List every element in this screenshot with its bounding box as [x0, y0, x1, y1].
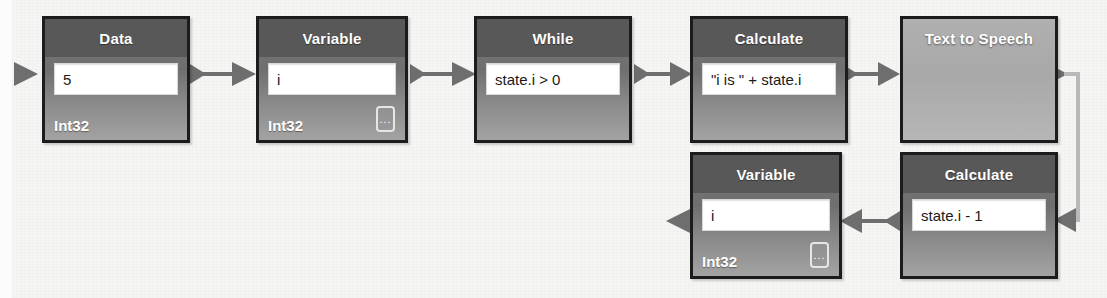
node-while-title: While	[477, 19, 629, 57]
node-variable-bottom[interactable]: Variable i Int32 ...	[690, 152, 842, 279]
node-data[interactable]: Data 5 Int32	[42, 16, 190, 143]
connector-calculate-bottom-to-variable-bottom	[838, 205, 902, 237]
node-text-to-speech-title: Text to Speech	[903, 19, 1055, 57]
node-data-type-label: Int32	[54, 117, 89, 134]
connector-variable-to-while	[408, 58, 478, 90]
connector-while-to-calculate	[632, 58, 694, 90]
node-variable-bottom-title: Variable	[693, 155, 839, 193]
node-variable-top-ellipsis-button[interactable]: ...	[376, 106, 395, 132]
node-variable-bottom-value-input[interactable]: i	[702, 199, 830, 231]
node-data-title: Data	[45, 19, 187, 57]
node-text-to-speech[interactable]: Text to Speech	[900, 16, 1058, 143]
node-calculate-bottom[interactable]: Calculate state.i - 1	[900, 152, 1058, 279]
connector-calculate-to-text-to-speech	[840, 58, 902, 90]
node-calculate-bottom-expression-input[interactable]: state.i - 1	[912, 199, 1046, 231]
connector-data-to-variable	[188, 58, 258, 90]
node-calculate-bottom-title: Calculate	[903, 155, 1055, 193]
node-while[interactable]: While state.i > 0	[474, 16, 632, 143]
node-variable-bottom-type-label: Int32	[702, 253, 737, 270]
node-variable-bottom-ellipsis-button[interactable]: ...	[810, 242, 829, 268]
connector-entry-to-data	[10, 58, 44, 90]
connector-variable-bottom-exit	[658, 205, 694, 237]
node-calculate-top-expression-input[interactable]: "i is " + state.i	[702, 63, 836, 95]
node-calculate-top[interactable]: Calculate "i is " + state.i	[690, 16, 848, 143]
node-data-value-input[interactable]: 5	[54, 63, 178, 95]
node-while-condition-input[interactable]: state.i > 0	[486, 63, 620, 95]
node-calculate-top-title: Calculate	[693, 19, 845, 57]
node-variable-top-value-input[interactable]: i	[268, 63, 396, 95]
node-variable-top-type-label: Int32	[268, 117, 303, 134]
node-variable-top-title: Variable	[259, 19, 405, 57]
page-left-margin	[0, 0, 12, 298]
workflow-canvas[interactable]: Data 5 Int32 Variable i Int32 ... While …	[0, 0, 1107, 298]
node-variable-top[interactable]: Variable i Int32 ...	[256, 16, 408, 143]
